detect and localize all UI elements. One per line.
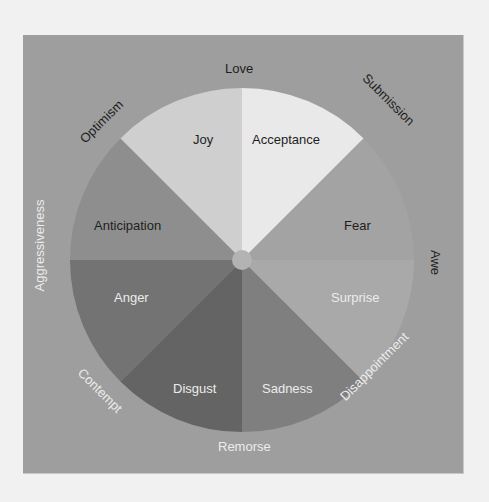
- dyad-remorse: Remorse: [218, 440, 271, 453]
- label-acceptance: Acceptance: [252, 133, 320, 146]
- label-surprise: Surprise: [331, 291, 379, 304]
- label-sadness: Sadness: [262, 382, 313, 395]
- dyad-aggressiveness: Aggressiveness: [33, 200, 46, 292]
- label-joy: Joy: [193, 133, 213, 146]
- label-anger: Anger: [114, 291, 149, 304]
- emotion-wheel-panel: Joy Acceptance Fear Surprise Sadness Dis…: [23, 35, 464, 474]
- wheel-hub: [232, 250, 252, 270]
- label-fear: Fear: [344, 219, 371, 232]
- label-disgust: Disgust: [173, 382, 216, 395]
- label-anticipation: Anticipation: [94, 219, 161, 232]
- dyad-love: Love: [225, 62, 253, 75]
- dyad-awe: Awe: [429, 250, 442, 275]
